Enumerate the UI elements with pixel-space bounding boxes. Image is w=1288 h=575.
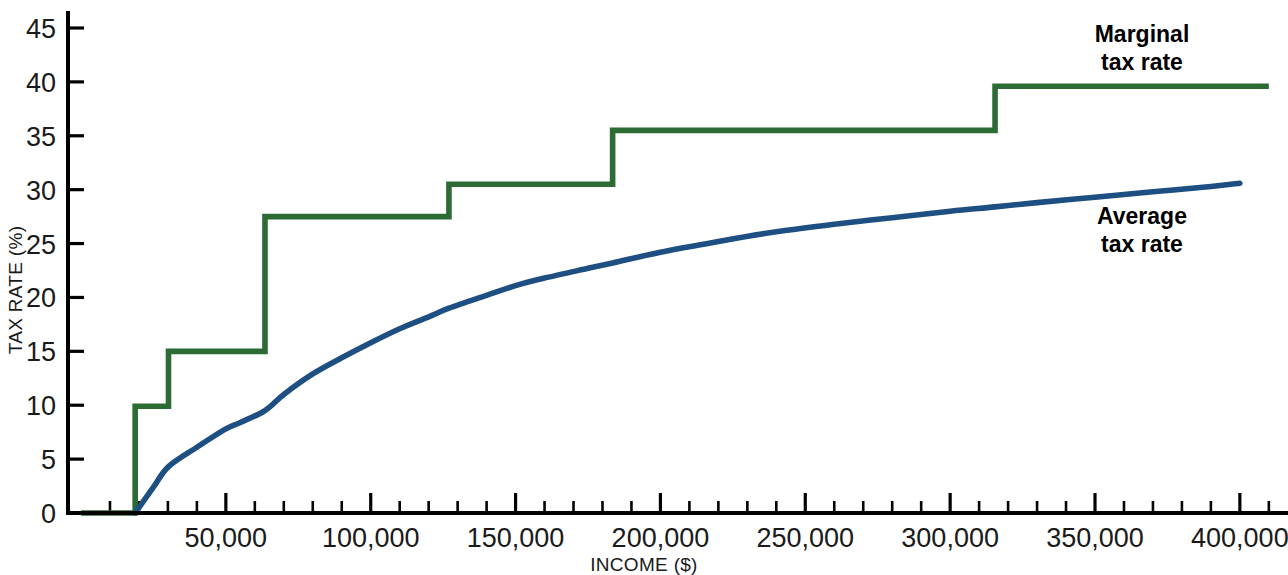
marginal-tax-rate-label: Marginal tax rate: [1095, 21, 1190, 75]
y-axis-tick-label: 40: [26, 68, 56, 98]
x-axis-tick-label: 400,000: [1191, 523, 1288, 553]
y-axis-tick-label: 30: [26, 176, 56, 206]
x-axis-tick-label: 250,000: [756, 523, 854, 553]
x-axis-tick-label: 100,000: [322, 523, 420, 553]
y-axis-tick-label: 45: [26, 14, 56, 44]
y-axis-tick-label: 0: [41, 499, 56, 529]
x-axis-tick-label: 150,000: [467, 523, 565, 553]
tax-rate-chart: 50,000100,000150,000200,000250,000300,00…: [0, 0, 1288, 575]
x-axis-title: INCOME ($): [590, 554, 698, 575]
y-axis-tick-label: 20: [26, 283, 56, 313]
data-series-layer: [81, 86, 1269, 513]
x-axis-tick-label: 300,000: [901, 523, 999, 553]
marginal-tax-rate-line: [81, 86, 1269, 513]
x-axis-tick-label: 350,000: [1046, 523, 1144, 553]
y-axis-tick-label: 5: [41, 445, 56, 475]
average-label-line2: tax rate: [1101, 231, 1183, 257]
y-axis-tick-label: 25: [26, 230, 56, 260]
x-axis-tick-labels: 50,000100,000150,000200,000250,000300,00…: [185, 523, 1288, 553]
x-axis-tick-label: 50,000: [185, 523, 268, 553]
x-axis-major-ticks: [226, 493, 1240, 513]
y-axis-tick-label: 10: [26, 391, 56, 421]
y-axis-title: TAX RATE (%): [5, 226, 26, 355]
average-label-line1: Average: [1097, 203, 1187, 229]
x-axis-tick-label: 200,000: [612, 523, 710, 553]
marginal-label-line2: tax rate: [1101, 49, 1183, 75]
marginal-label-line1: Marginal: [1095, 21, 1190, 47]
y-axis-tick-label: 35: [26, 122, 56, 152]
y-axis-tick-labels: 051015202530354045: [26, 14, 56, 529]
chart-canvas: 50,000100,000150,000200,000250,000300,00…: [0, 0, 1288, 575]
y-axis-tick-label: 15: [26, 337, 56, 367]
y-axis-ticks: [68, 28, 84, 459]
average-tax-rate-line: [135, 183, 1240, 513]
average-tax-rate-label: Average tax rate: [1097, 203, 1187, 257]
